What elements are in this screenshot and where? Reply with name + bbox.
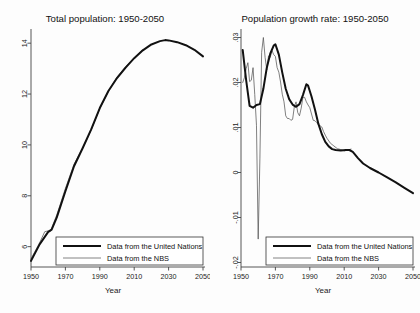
x-tick-label: 2030 [371,272,387,281]
series-line-un [243,44,413,193]
x-tick-label: 2010 [336,272,352,281]
legend-growth-rate: Data from the United NationsData from th… [266,237,413,265]
x-tick-label: 2050 [405,272,420,281]
y-tick-label: -.01 [231,211,240,223]
legend-total-population: Data from the United NationsData from th… [56,237,203,265]
x-axis-title-left: Year [105,286,122,295]
y-tick-label: 6 [21,245,30,249]
x-tick-label: 2050 [195,272,210,281]
series-line-nbs [243,38,351,240]
legend-label-un: Data from the United Nations [317,242,413,251]
legend-label-nbs: Data from the NBS [317,254,379,263]
population-growth-rate-chart: Population growth rate: 1950-2050 .03.02… [210,0,420,313]
legend-label-nbs: Data from the NBS [107,254,169,263]
y-tick-label: 8 [21,194,30,198]
panel-population-growth-rate: Population growth rate: 1950-2050 .03.02… [210,0,420,313]
x-tick-label: 1950 [23,272,39,281]
y-tick-label: 10 [21,141,30,149]
series-line-nbs [31,50,143,259]
y-tick-label: .02 [231,78,240,88]
x-tick-label: 1970 [57,272,73,281]
panel-total-population: Total population: 1950-2050 681012141950… [0,0,210,313]
series-total-population [31,40,203,261]
x-tick-label: 1990 [92,272,108,281]
panel-title-growth-rate: Population growth rate: 1950-2050 [241,13,388,24]
x-tick-label: 1950 [233,272,249,281]
x-tick-label: 2030 [161,272,177,281]
legend-label-un: Data from the United Nations [107,242,203,251]
y-tick-label: .01 [231,123,240,133]
x-tick-label: 1970 [267,272,283,281]
y-tick-label: 0 [231,171,240,175]
panel-title-total-population: Total population: 1950-2050 [46,13,164,24]
series-growth-rate [243,38,413,240]
x-tick-label: 2010 [126,272,142,281]
y-tick-label: 14 [21,39,30,47]
y-tick-label: .03 [231,33,240,43]
figure-container: Total population: 1950-2050 681012141950… [0,0,420,313]
y-tick-label: 12 [21,90,30,98]
x-axis-title-right: Year [315,286,332,295]
series-line-un [31,40,203,261]
y-tick-label: -.02 [231,256,240,268]
x-tick-label: 1990 [302,272,318,281]
total-population-chart: Total population: 1950-2050 681012141950… [0,0,210,313]
